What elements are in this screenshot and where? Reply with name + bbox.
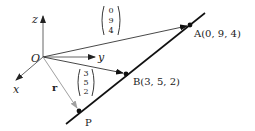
point-B <box>124 72 129 77</box>
point-P-label: P <box>85 117 92 128</box>
r-label: r <box>52 82 58 93</box>
oa-component-y: 9 <box>109 16 114 25</box>
point-B-label: B(3, 5, 2) <box>133 76 180 87</box>
ob-component-z: 2 <box>84 87 89 96</box>
z-axis-label: z <box>31 13 38 26</box>
oa-component-x: 0 <box>109 6 114 15</box>
vector-r <box>43 57 77 108</box>
column-vector-OA: 0 9 4 <box>102 6 120 35</box>
ob-component-y: 5 <box>84 78 89 87</box>
point-P <box>77 109 82 114</box>
x-axis-label: x <box>13 83 20 96</box>
point-A <box>188 23 193 28</box>
y-axis-label: y <box>97 51 105 64</box>
oa-component-z: 4 <box>109 26 114 35</box>
point-A-label: A(0, 9, 4) <box>193 28 241 39</box>
column-vector-OB: 3 5 2 <box>78 69 94 96</box>
vector-OA <box>43 26 187 57</box>
vector-line-diagram: z y x O A(0, 9, 4) B(3, 5, 2) P r 0 9 4 … <box>0 0 255 131</box>
ob-component-x: 3 <box>84 69 89 78</box>
diagram-svg: z y x O A(0, 9, 4) B(3, 5, 2) P r 0 9 4 … <box>0 0 255 131</box>
origin-label: O <box>31 52 40 65</box>
